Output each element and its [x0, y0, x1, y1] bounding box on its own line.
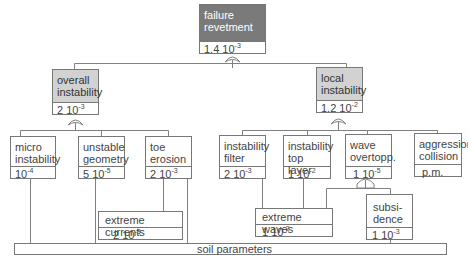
event-extreme-currents: extreme currents 2 10-3 — [98, 211, 183, 240]
event-extreme-waves: extreme waves 1 10-2 — [255, 208, 333, 237]
event-instability-filter: instability filter 2 10-3 — [219, 135, 266, 179]
event-unstable-geometry: unstable geometry 5 10-5 — [78, 136, 125, 179]
soil-parameters-bar: soil parameters — [14, 243, 447, 255]
probability: 1 10-2 — [284, 166, 330, 180]
event-label: aggression collision — [415, 134, 461, 164]
event-subsidence: subsi-dence 1 10-3 — [366, 194, 413, 240]
top-event-failure-revetment: failure revetment 1.4 10-3 — [199, 4, 266, 54]
fault-tree-diagram: failure revetment 1.4 10-3 overall insta… — [0, 0, 468, 267]
event-instability-top-layer: instability top layer 1 10-2 — [283, 135, 331, 179]
event-label: failure revetment — [200, 5, 265, 41]
probability: 5 10-5 — [79, 166, 124, 180]
event-label: toe erosion — [146, 137, 191, 166]
event-label: local instability — [317, 68, 362, 100]
event-label: micro instability — [11, 137, 55, 166]
event-label: unstable geometry — [79, 137, 124, 166]
probability: 1.2 10-2 — [317, 100, 362, 114]
probability: 2 10-3 — [146, 166, 191, 180]
probability: 1 10-3 — [367, 227, 412, 241]
event-wave-overtopping: wave overtopp. 1 10-5 — [345, 134, 392, 179]
event-label: extreme waves — [256, 209, 332, 224]
event-label: extreme currents — [99, 212, 182, 227]
soil-parameters-label: soil parameters — [197, 243, 272, 255]
event-toe-erosion: toe erosion 2 10-3 — [145, 136, 192, 179]
event-aggression-collision: aggression collision p.m. — [414, 133, 462, 177]
event-label: subsi-dence — [367, 195, 412, 227]
probability: 2 10-3 — [220, 166, 265, 180]
probability: 2 10-3 — [53, 102, 98, 116]
event-label: wave overtopp. — [346, 135, 391, 166]
probability: 1 10-2 — [256, 224, 332, 238]
event-overall-instability: overall instability 2 10-3 — [52, 69, 99, 115]
event-label: overall instability — [53, 70, 98, 102]
event-local-instability: local instability 1.2 10-2 — [316, 67, 363, 113]
probability: 10-4 — [11, 166, 55, 180]
probability: 1 10-5 — [346, 166, 391, 180]
event-micro-instability: micro instability 10-4 — [10, 136, 56, 179]
event-label: instability top layer — [284, 136, 330, 166]
event-label: instability filter — [220, 136, 265, 166]
probability: p.m. — [415, 164, 461, 178]
probability: 1.4 10-3 — [200, 41, 265, 55]
